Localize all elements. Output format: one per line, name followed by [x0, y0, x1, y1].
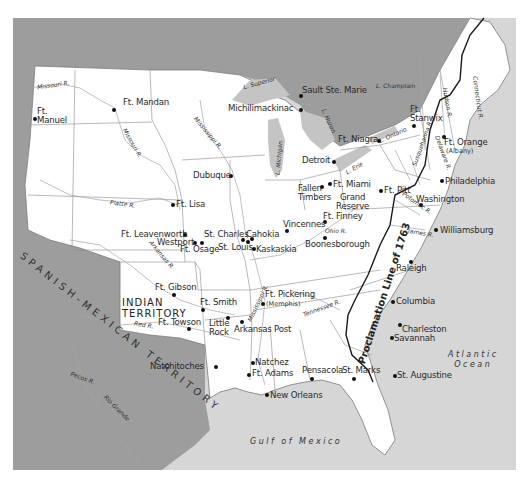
- philadelphia-label: Philadelphia: [445, 177, 495, 186]
- pensacola-marker[interactable]: [310, 377, 314, 381]
- st-marks-marker[interactable]: [352, 377, 356, 381]
- ft-towson-marker[interactable]: [187, 327, 191, 331]
- indian-territory-label: INDIAN TERRITORY: [122, 297, 187, 319]
- ft-adams-label: Ft. Adams: [252, 369, 293, 378]
- vincennes-marker[interactable]: [285, 229, 289, 233]
- ft-pickering-label: Ft. Pickering: [265, 290, 315, 299]
- gulf-of-mexico-label: Gulf of Mexico: [250, 437, 342, 447]
- ft-lisa-label: Ft. Lisa: [176, 200, 205, 209]
- map-canvas: [0, 0, 529, 486]
- ft-osage-label: Ft. Osage: [180, 245, 219, 254]
- st-charles-label: St. Charles: [204, 230, 249, 239]
- philadelphia-marker[interactable]: [440, 179, 444, 183]
- ft-pitt-marker[interactable]: [379, 189, 383, 193]
- ft-stanwix-label: Ft. Stanwix: [410, 105, 443, 123]
- michilimackinac-marker[interactable]: [299, 108, 303, 112]
- natchitoches-marker[interactable]: [214, 365, 218, 369]
- detroit-label: Detroit: [302, 156, 330, 165]
- ft-smith-marker[interactable]: [201, 308, 205, 312]
- detroit-marker[interactable]: [332, 160, 336, 164]
- ft-gibson-marker[interactable]: [172, 293, 176, 297]
- ft-pickering-subtitle: (Memphis): [266, 300, 300, 308]
- washington-label: Washington: [416, 195, 465, 204]
- new-orleans-label: New Orleans: [270, 391, 322, 400]
- ft-miami-label: Ft. Miami: [333, 180, 371, 189]
- ft-smith-label: Ft. Smith: [200, 298, 237, 307]
- st-marks-label: St. Marks: [342, 366, 380, 375]
- ft-mandan-label: Ft. Mandan: [123, 98, 169, 107]
- savannah-label: Savannah: [394, 334, 435, 343]
- ft-stanwix-marker[interactable]: [412, 124, 416, 128]
- ft-niagra-label: Ft. Niagra: [338, 135, 378, 144]
- raleigh-label: Raleigh: [396, 264, 427, 273]
- ft-pickering-marker[interactable]: [261, 302, 265, 306]
- little-rock-label: Little Rock: [209, 319, 229, 337]
- ft-pitt-label: Ft. Pitt: [384, 186, 410, 195]
- ft-orange-label: Ft. Orange: [444, 138, 488, 147]
- ft-miami-marker[interactable]: [328, 182, 332, 186]
- lake-champlain-label: L. Champlain: [376, 83, 415, 89]
- natchitoches-label: Natchitoches: [150, 362, 204, 371]
- michilimackinac-label: Michilimackinac: [228, 104, 293, 113]
- ft-towson-label: Ft. Towson: [158, 318, 201, 327]
- st-louis-label: St. Louis: [218, 243, 253, 252]
- atlantic-ocean-label: Atlantic Ocean: [448, 350, 499, 369]
- sault-ste-marie-label: Sault Ste. Marie: [302, 86, 367, 95]
- new-orleans-marker[interactable]: [265, 393, 269, 397]
- ft-orange-subtitle: (Albany): [446, 147, 473, 155]
- williamsburg-marker[interactable]: [434, 228, 438, 232]
- ft-manuel-label: Ft. Manuel: [37, 107, 67, 125]
- st-augustine-label: St. Augustine: [397, 371, 452, 380]
- williamsburg-label: Williamsburg: [440, 226, 493, 235]
- arkansas-post-label: Arkansas Post: [234, 325, 291, 334]
- ft-finney-label: Ft. Finney: [323, 212, 363, 221]
- columbia-label: Columbia: [396, 297, 435, 306]
- grand-reserve-label: Grand Reserve: [336, 193, 369, 211]
- boonesborough-label: Boonesborough: [305, 240, 370, 249]
- pensacola-label: Pensacola: [302, 366, 343, 375]
- ft-adams-marker[interactable]: [247, 373, 251, 377]
- cahokia-label: Cahokia: [246, 230, 279, 239]
- ft-gibson-label: Ft. Gibson: [155, 283, 196, 292]
- kaskaskia-label: Kaskaskia: [256, 245, 297, 254]
- vincennes-label: Vincennes: [283, 220, 325, 229]
- ohio-river-label: Ohio R.: [325, 228, 347, 234]
- fallen-timbers-label: Fallen Timbers: [298, 184, 331, 202]
- ft-mandan-marker[interactable]: [112, 108, 116, 112]
- columbia-marker[interactable]: [391, 300, 395, 304]
- natchez-label: Natchez: [255, 358, 289, 367]
- dubuque-label: Dubuque: [193, 171, 231, 180]
- ft-lisa-marker[interactable]: [171, 203, 175, 207]
